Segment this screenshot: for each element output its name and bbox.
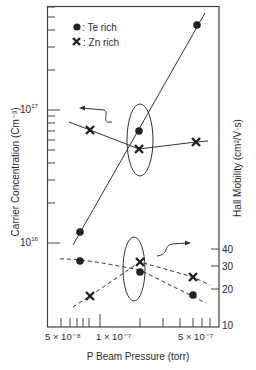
y-axis-left-label: Carrier Concentration (Cm⁻³)	[10, 108, 21, 237]
r-tick-30: 30	[222, 261, 234, 272]
r-tick-40: 40	[222, 244, 234, 255]
y-tick-1e17: 1017	[20, 103, 38, 115]
y-axis-right-label: Hall Mobility (cm²/V·s)	[232, 119, 243, 217]
legend: : Te rich : Zn rich	[73, 22, 119, 48]
x-tick-5e-7: 5 × 10⁻⁷	[178, 331, 214, 342]
legend-zn-rich: : Zn rich	[83, 37, 119, 48]
x-axis-ticks	[61, 314, 210, 327]
legend-circle-marker	[73, 23, 80, 30]
right-arrow-annotation	[157, 243, 187, 256]
x-tick-1e-7: 1 × 10⁻⁷	[96, 331, 132, 342]
r-tick-10: 10	[222, 320, 234, 331]
chart-figure: 1017 1016 Carrier Concentration (Cm⁻³) 4…	[0, 0, 256, 370]
zn-rich-carrier-line	[69, 122, 208, 149]
right-axis-ticks	[211, 249, 219, 289]
y-tick-1e16: 1016	[20, 236, 38, 248]
x-axis-label: P Beam Pressure (torr)	[87, 351, 190, 362]
arrowhead-right-icon	[185, 241, 191, 246]
te-rich-mobility-line	[60, 259, 206, 303]
x-tick-5e-8: 5 × 10⁻⁸	[45, 331, 81, 342]
r-tick-20: 20	[222, 284, 234, 295]
legend-x-marker	[73, 38, 80, 45]
arrowhead-left-icon	[79, 106, 85, 111]
left-arrow-annotation	[82, 108, 112, 122]
upper-ellipse-annotation	[127, 104, 153, 176]
legend-te-rich: : Te rich	[82, 22, 117, 33]
left-axis-ticks	[47, 7, 60, 243]
